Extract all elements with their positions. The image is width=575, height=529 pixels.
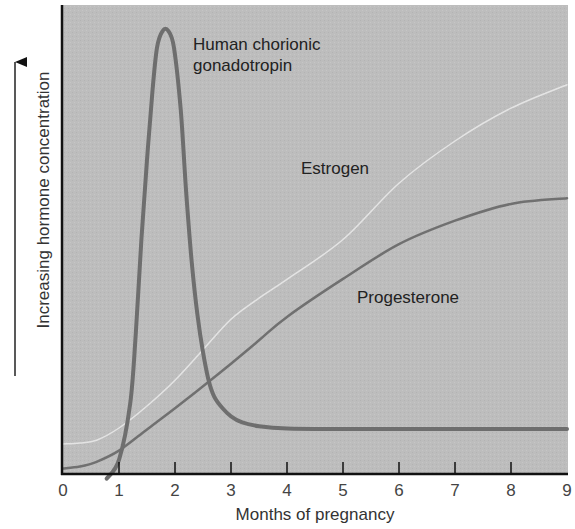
hcg-label-line2: gonadotropin [193,55,321,76]
y-axis-label: Increasing hormone concentration [34,71,54,328]
estrogen-label: Estrogen [301,158,369,179]
x-tick-label: 1 [114,481,123,501]
progesterone-label: Progesterone [357,287,459,308]
x-tick-label: 5 [338,481,347,501]
x-tick-label: 0 [58,481,67,501]
x-tick-label: 4 [282,481,291,501]
x-tick-label: 2 [170,481,179,501]
hcg-label-line1: Human chorionic [193,34,321,55]
x-tick-label: 8 [506,481,515,501]
x-tick-label: 6 [394,481,403,501]
x-tick-label: 7 [450,481,459,501]
x-tick-label: 3 [226,481,235,501]
x-axis-label: Months of pregnancy [236,505,395,525]
x-tick-label: 9 [562,481,571,501]
chart-canvas [0,0,575,529]
hcg-label: Human chorionic gonadotropin [193,34,321,76]
